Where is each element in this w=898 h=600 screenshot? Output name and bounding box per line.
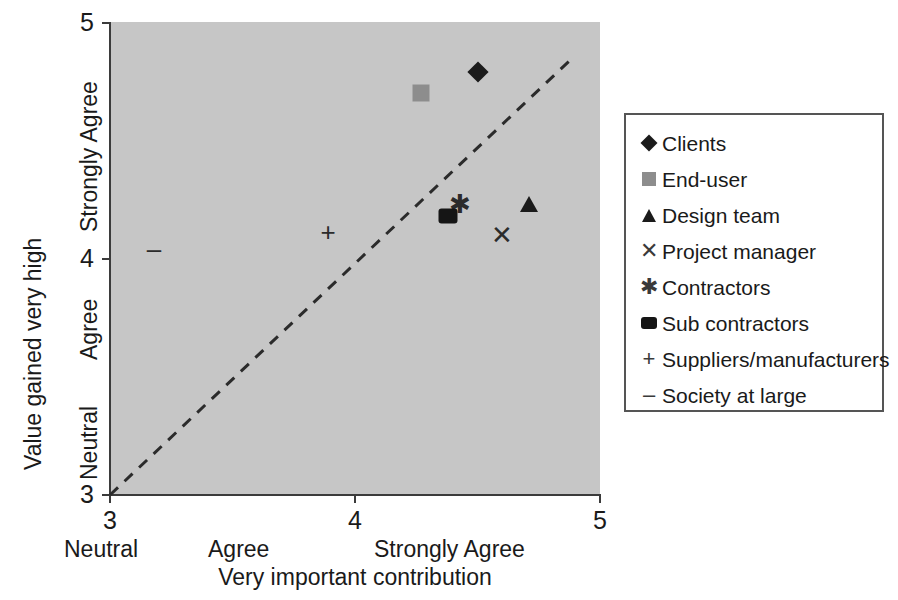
- y-category-label-agree: Agree: [78, 299, 101, 360]
- x-tick-label-5: 5: [570, 508, 630, 533]
- legend-item-suppliers-manufacturers[interactable]: +Suppliers/manufacturers: [636, 341, 882, 377]
- legend-marker-square-icon: [636, 166, 662, 192]
- legend-label: End-user: [662, 169, 747, 190]
- y-tick-4: [102, 258, 111, 260]
- legend-label: Design team: [662, 205, 780, 226]
- data-point-end-user: [413, 84, 430, 101]
- legend-item-clients[interactable]: Clients: [636, 125, 882, 161]
- legend-label: Suppliers/manufacturers: [662, 349, 890, 370]
- x-category-label-agree: Agree: [208, 538, 269, 561]
- y-category-label-strongly-agree: Strongly Agree: [78, 81, 101, 232]
- y-tick-label-3: 3: [34, 482, 94, 507]
- x-tick-4: [354, 494, 356, 503]
- plot-area: [110, 22, 600, 495]
- y-category-label-neutral: Neutral: [78, 406, 101, 480]
- y-axis-title: Value gained very high: [22, 238, 45, 470]
- legend-label: Sub contractors: [662, 313, 809, 334]
- legend-label: Clients: [662, 133, 726, 154]
- legend-item-sub-contractors[interactable]: Sub contractors: [636, 305, 882, 341]
- data-point-design-team: [520, 196, 538, 212]
- data-point-project-manager: ✕: [491, 222, 513, 248]
- legend-item-project-manager[interactable]: ✕Project manager: [636, 233, 882, 269]
- data-point-suppliers-manufacturers: +: [320, 219, 335, 245]
- scatter-chart-figure: 3 4 5 3 4 5 Neutral Agree Strongly Agree…: [0, 0, 898, 600]
- legend-label: Contractors: [662, 277, 771, 298]
- x-category-label-neutral: Neutral: [64, 538, 138, 561]
- y-tick-5: [102, 22, 111, 24]
- data-point-sub-contractors: [439, 208, 458, 223]
- legend-item-contractors[interactable]: ✱Contractors: [636, 269, 882, 305]
- legend-marker-glyph-icon: +: [636, 346, 662, 372]
- x-tick-label-4: 4: [325, 508, 385, 533]
- legend-marker-blob-icon: [636, 310, 662, 336]
- legend-item-society-at-large[interactable]: –Society at large: [636, 377, 882, 413]
- x-tick-label-3: 3: [80, 508, 140, 533]
- legend-marker-glyph-icon: –: [636, 382, 662, 408]
- x-axis-title: Very important contribution: [110, 566, 600, 589]
- x-category-label-strongly-agree: Strongly Agree: [374, 538, 525, 561]
- legend-box: ClientsEnd-userDesign team✕Project manag…: [624, 113, 884, 412]
- legend-item-end-user[interactable]: End-user: [636, 161, 882, 197]
- legend-item-design-team[interactable]: Design team: [636, 197, 882, 233]
- legend-marker-glyph-icon: ✱: [636, 274, 662, 300]
- x-tick-5: [599, 494, 601, 503]
- data-point-society-at-large: –: [147, 236, 161, 262]
- legend-label: Society at large: [662, 385, 807, 406]
- y-tick-3: [102, 494, 111, 496]
- y-tick-label-5: 5: [34, 10, 94, 35]
- legend-label: Project manager: [662, 241, 816, 262]
- legend-marker-glyph-icon: ✕: [636, 238, 662, 264]
- legend-marker-triangle-icon: [636, 202, 662, 228]
- legend-marker-diamond-icon: [636, 130, 662, 156]
